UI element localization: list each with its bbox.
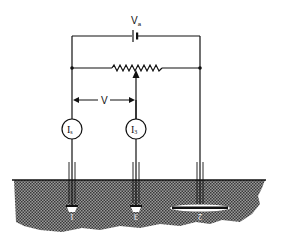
voltage-label: V — [101, 95, 108, 106]
electrode-2-label: 2 — [198, 212, 202, 221]
source-voltage-label: Va — [131, 15, 142, 27]
source-loop — [72, 36, 200, 68]
electrode-3-label: 3 — [134, 212, 138, 221]
battery-icon — [133, 30, 138, 42]
electrode-1-label: 1 — [70, 212, 74, 221]
ammeter-i3: I3 — [126, 119, 146, 139]
earth-test-diagram: Va V Is I3 1 — [0, 0, 281, 240]
ammeter-is: Is — [62, 119, 82, 139]
